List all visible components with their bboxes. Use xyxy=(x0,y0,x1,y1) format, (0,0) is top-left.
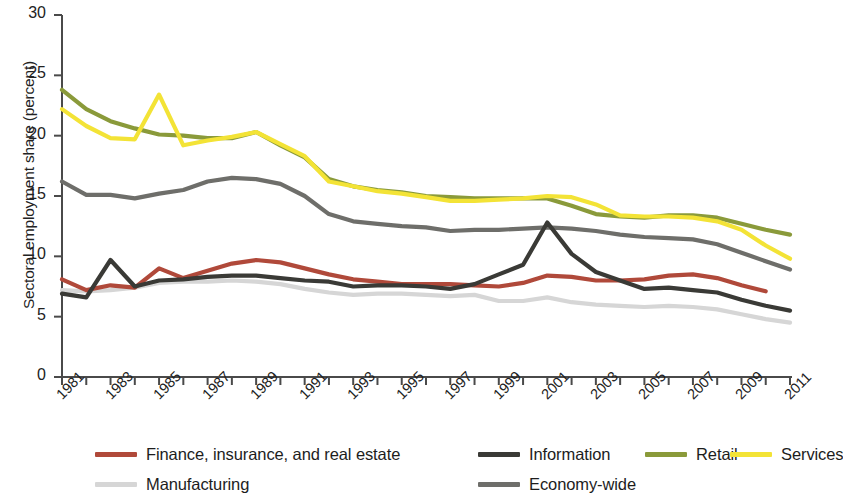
y-tick-label: 0 xyxy=(12,366,46,384)
y-tick-label: 5 xyxy=(12,306,46,324)
y-tick-label: 20 xyxy=(12,125,46,143)
y-tick-label: 10 xyxy=(12,245,46,263)
legend-item: Economy-wide xyxy=(478,470,636,498)
legend-item: Finance, insurance, and real estate xyxy=(95,440,400,468)
legend-row-1: Finance, insurance, and real estateInfor… xyxy=(0,440,802,468)
legend-label: Services xyxy=(781,445,843,464)
line-chart: Sectoral employment share (percent) 0510… xyxy=(0,0,802,440)
legend-item: Retail xyxy=(645,440,738,468)
legend-label: Economy-wide xyxy=(529,475,636,494)
y-tick-label: 30 xyxy=(12,4,46,22)
legend-swatch xyxy=(730,452,772,457)
legend-swatch xyxy=(478,452,520,457)
series-line-retail xyxy=(62,90,790,235)
legend-item: Services xyxy=(730,440,843,468)
legend-row-2: ManufacturingEconomy-wide xyxy=(0,470,802,498)
legend-label: Finance, insurance, and real estate xyxy=(146,445,400,464)
legend-swatch xyxy=(95,452,137,457)
y-tick-label: 15 xyxy=(12,185,46,203)
legend-label: Manufacturing xyxy=(146,475,249,494)
series-line-economy-wide xyxy=(62,178,790,270)
y-tick-label: 25 xyxy=(12,64,46,82)
legend-swatch xyxy=(478,482,520,487)
chart-legend: Finance, insurance, and real estateInfor… xyxy=(0,440,802,502)
series-line-services xyxy=(62,95,790,259)
legend-item: Manufacturing xyxy=(95,470,249,498)
legend-swatch xyxy=(95,482,137,487)
series-line-information xyxy=(62,223,790,311)
legend-swatch xyxy=(645,452,687,457)
legend-item: Information xyxy=(478,440,610,468)
legend-label: Information xyxy=(529,445,610,464)
